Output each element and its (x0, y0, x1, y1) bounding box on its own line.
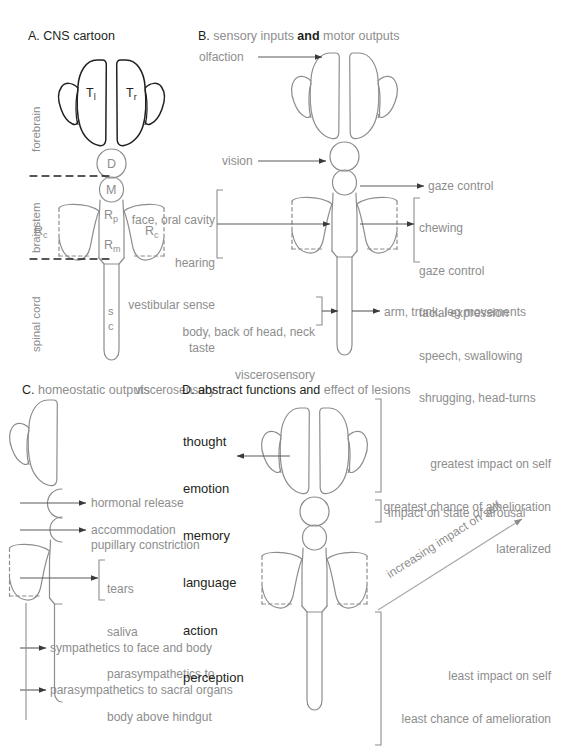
list-item: viscerosensory (165, 368, 315, 382)
list-item: action (183, 623, 244, 640)
label-spinal-cord-c: c (108, 320, 114, 333)
list-item: speech, swallowing (419, 349, 536, 363)
list-item: body, back of head, neck (165, 325, 315, 339)
list-item: greatest impact on self (335, 457, 551, 471)
panel-b-arrows (217, 57, 424, 325)
cns-cartoon-figure: A. CNS cartoon forebrain brainstem spina… (0, 0, 565, 755)
list-item: least chance of amelioration (335, 712, 551, 726)
panel-c-anatomy (10, 400, 63, 702)
panel-b-olfaction-label: olfaction (199, 50, 244, 64)
label-cerebellum-left: Rc (34, 224, 48, 239)
label-pons: Rp (104, 208, 118, 223)
panel-a-label-forebrain: forebrain (30, 107, 44, 152)
list-item: gaze control (419, 264, 536, 278)
list-item: hearing (120, 256, 215, 270)
label-telencephalon-left: Tl (86, 86, 96, 101)
panel-b-gaze-control-label: gaze control (428, 179, 493, 193)
panel-d-brainstem-effect: impact on state of arousal (388, 506, 525, 520)
list-item: thought (183, 434, 244, 451)
panel-b-motor-spinal-label: arm, trunk, leg movements (384, 305, 526, 319)
panel-d-functions-list: thought emotion memory language action p… (183, 403, 244, 717)
label-spinal-cord-s: s (108, 305, 114, 318)
panel-a-label-spinal-cord: spinal cord (30, 296, 44, 352)
panel-c-title: C. homeostatic outputs (22, 383, 150, 398)
list-item: chewing (419, 221, 536, 235)
list-item: shrugging, head-turns (419, 391, 536, 405)
panel-b-vision-label: vision (222, 154, 253, 168)
list-item: face, oral cavity (120, 213, 215, 227)
list-item: memory (183, 528, 244, 545)
panel-d-spinal-effects: least impact on self least chance of ame… (335, 641, 551, 754)
list-item: least impact on self (335, 669, 551, 683)
label-medulla: Rm (104, 238, 121, 253)
label-telencephalon-right: Tr (126, 86, 137, 101)
list-item: perception (183, 670, 244, 687)
panel-b-title: B. sensory inputs and motor outputs (198, 29, 400, 44)
panel-c-output-hormonal: hormonal release (91, 496, 184, 510)
panel-c-output-accommodation: accommodation (91, 523, 176, 537)
list-item: emotion (183, 481, 244, 498)
panel-a-title: A. CNS cartoon (28, 29, 115, 44)
list-item: language (183, 575, 244, 592)
label-diencephalon: D (107, 157, 116, 172)
panel-d-title: D. abstract functions and effect of lesi… (182, 383, 410, 398)
label-mesencephalon: M (106, 183, 116, 198)
